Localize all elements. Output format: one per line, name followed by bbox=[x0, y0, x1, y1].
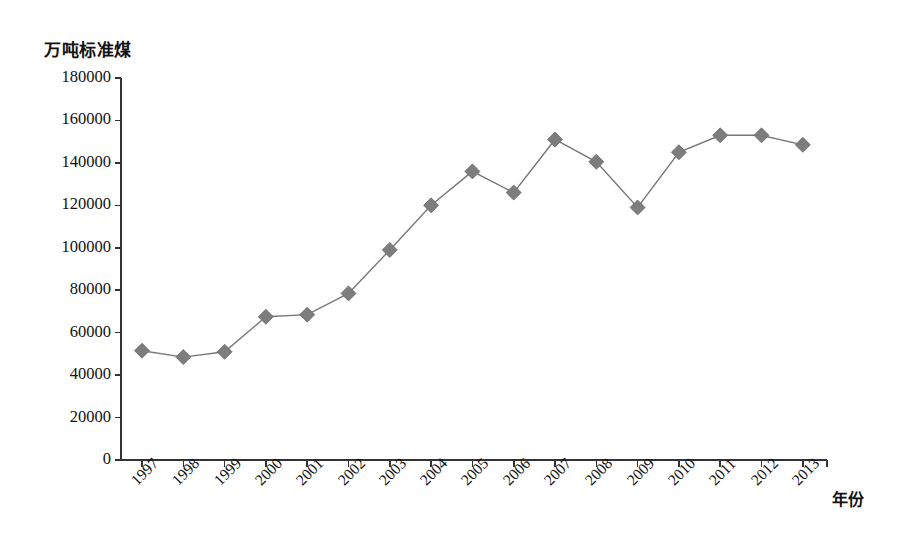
y-tick-label: 160000 bbox=[19, 111, 111, 128]
y-tick-label: 60000 bbox=[19, 324, 111, 341]
chart-figure: 万吨标准煤 年份 0200004000060000800001000001200… bbox=[0, 0, 903, 552]
y-tick-label: 80000 bbox=[19, 281, 111, 298]
y-tick-label: 0 bbox=[19, 451, 111, 468]
data-point-marker bbox=[506, 185, 521, 200]
data-point-marker bbox=[548, 132, 563, 147]
data-point-marker bbox=[176, 350, 191, 365]
data-point-marker bbox=[465, 164, 480, 179]
data-point-marker bbox=[671, 145, 686, 160]
y-tick-label: 180000 bbox=[19, 69, 111, 86]
data-point-marker bbox=[300, 307, 315, 322]
data-point-marker bbox=[713, 128, 728, 143]
data-point-marker bbox=[795, 137, 810, 152]
y-tick-label: 120000 bbox=[19, 196, 111, 213]
y-tick-label: 140000 bbox=[19, 154, 111, 171]
data-point-marker bbox=[135, 343, 150, 358]
y-tick-label: 20000 bbox=[19, 409, 111, 426]
y-tick-label: 40000 bbox=[19, 366, 111, 383]
data-point-marker bbox=[754, 128, 769, 143]
series-markers-group bbox=[135, 128, 811, 365]
y-tick-label: 100000 bbox=[19, 239, 111, 256]
